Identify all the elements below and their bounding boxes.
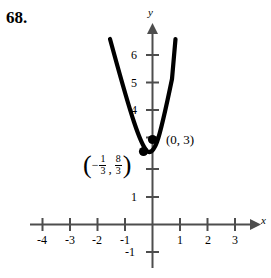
point-y-intercept-dot xyxy=(148,135,157,144)
vertex-comma: , xyxy=(108,161,111,178)
x-axis-arrowhead xyxy=(250,219,261,230)
x-tick-label--3: -3 xyxy=(59,233,81,248)
vertex-minus-sign: − xyxy=(92,158,99,173)
vertex-x-numerator: 1 xyxy=(99,154,106,165)
vertex-y-numerator: 8 xyxy=(115,154,122,165)
x-axis-label: x xyxy=(261,214,266,226)
y-tick-label-5: 5 xyxy=(123,76,145,91)
x-tick-label--2: -2 xyxy=(86,233,108,248)
point-vertex-dot xyxy=(139,147,148,156)
y-tick-label--1: -1 xyxy=(119,245,141,260)
x-tick-label-1: 1 xyxy=(169,233,191,248)
y-axis-label: y xyxy=(148,6,153,18)
x-tick-label--4: -4 xyxy=(31,233,53,248)
y-axis-arrowhead xyxy=(147,23,158,34)
vertex-y-fraction: 8 3 xyxy=(115,154,122,176)
vertex-x-denominator: 3 xyxy=(99,165,106,177)
y-tick-label-6: 6 xyxy=(123,48,145,63)
vertex-y-denominator: 3 xyxy=(115,165,122,177)
vertex-open-paren: ( xyxy=(83,152,92,178)
y-tick-label-1: 1 xyxy=(123,190,145,205)
y-tick-label-4: 4 xyxy=(123,103,145,118)
vertex-x-fraction: 1 3 xyxy=(99,154,106,176)
vertex-close-paren: ) xyxy=(123,152,132,178)
x-tick-label-3: 3 xyxy=(224,233,246,248)
y-intercept-label: (0, 3) xyxy=(166,132,194,148)
vertex-label: ( − 1 3 , 8 3 ) xyxy=(83,152,131,178)
x-tick-label-2: 2 xyxy=(197,233,219,248)
